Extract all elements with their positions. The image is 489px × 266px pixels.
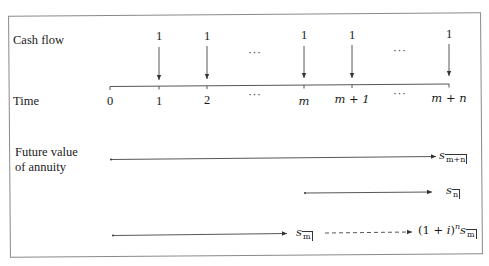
fv-label-s-m-plus-n: sm+n	[439, 148, 467, 162]
payment-ellipsis-2: ···	[393, 44, 407, 57]
tick-label-m-plus-n: m + n	[431, 91, 466, 105]
fv-label-s-n: sn	[446, 183, 460, 197]
payment-ellipsis-1: ···	[248, 46, 262, 59]
tick-label-m: m	[299, 94, 310, 108]
payment-value-1: 1	[156, 29, 162, 44]
payment-value-m: 1	[301, 28, 307, 43]
tick-ellipsis-2: ···	[393, 87, 407, 100]
annuity-timeline-diagram: Cash flow Time Future value of annuity	[0, 0, 489, 266]
fv-label-s-m: sm	[296, 225, 313, 239]
tick-ellipsis-1: ···	[248, 88, 262, 101]
payment-value-m-plus-n: 1	[446, 27, 452, 42]
tick-label-m-plus-1: m + 1	[334, 92, 369, 106]
payment-value-m-plus-1: 1	[349, 28, 355, 43]
fv-label-accumulated-s-m: (1 + i)nsm	[418, 222, 477, 237]
diagram-lines	[0, 0, 489, 266]
tick-label-0: 0	[107, 94, 113, 109]
tick-label-1: 1	[156, 94, 162, 109]
tick-label-2: 2	[204, 93, 210, 108]
future-value-arrows	[110, 157, 436, 237]
payment-value-2: 1	[204, 29, 210, 44]
